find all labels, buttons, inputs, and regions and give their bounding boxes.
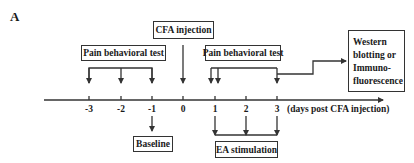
tick-label: 3 bbox=[275, 104, 280, 114]
pain-test-post-box: Pain behavioral test bbox=[205, 45, 281, 61]
tick-label: -3 bbox=[85, 104, 93, 114]
axis-caption: (days post CFA injection) bbox=[287, 104, 389, 114]
western-line-2: blotting or bbox=[353, 49, 396, 62]
tick-label: 1 bbox=[213, 104, 218, 114]
ea-stimulation-box: EA stimulation bbox=[215, 141, 278, 158]
western-line-1: Western bbox=[353, 36, 387, 49]
tick-label: -2 bbox=[117, 104, 125, 114]
western-blotting-box: Western blotting or Immuno- fluorescence bbox=[348, 30, 405, 92]
cfa-injection-box: CFA injection bbox=[153, 21, 214, 39]
western-line-3: Immuno- bbox=[353, 62, 391, 75]
tick-label: 2 bbox=[244, 104, 249, 114]
baseline-box: Baseline bbox=[133, 136, 173, 152]
western-line-4: fluorescence bbox=[353, 75, 403, 88]
tick-label: 0 bbox=[181, 104, 186, 114]
pain-test-pre-box: Pain behavioral test bbox=[81, 45, 166, 61]
tick-label: -1 bbox=[148, 104, 156, 114]
